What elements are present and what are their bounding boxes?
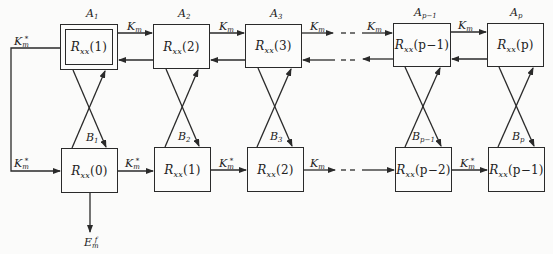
feedback-label-top: Km* xyxy=(14,35,32,48)
arrow-label-bottom-1: Km* xyxy=(125,157,143,170)
node-Ap: Rxx(p) xyxy=(487,23,544,67)
node-B3-content: Rxx(2) xyxy=(257,163,293,177)
arrow-label-top-1: Km xyxy=(127,20,142,33)
node-B2-content: Rxx(1) xyxy=(164,163,200,177)
node-B3: Rxx(2) xyxy=(247,147,304,192)
label-B1: B1 xyxy=(86,131,99,144)
label-B3: B3 xyxy=(270,130,283,143)
label-A3: A3 xyxy=(270,7,282,20)
node-Ap-1-content: Rxx(p−1) xyxy=(395,38,449,52)
arrow-label-top-4: Km xyxy=(367,20,382,33)
node-A2: Rxx(2) xyxy=(153,24,210,69)
arrow-label-top-2: Km xyxy=(219,20,234,33)
node-A3: Rxx(3) xyxy=(245,24,302,68)
lattice-diagram: Rxx(1) Rxx(2) Rxx(3) Rxx(p−1) Rxx(p) Rxx… xyxy=(0,0,553,254)
node-Ap-1: Rxx(p−1) xyxy=(393,23,451,67)
node-Ap-content: Rxx(p) xyxy=(497,38,533,52)
node-A3-content: Rxx(3) xyxy=(255,39,291,53)
node-Bp-1: Rxx(p−2) xyxy=(395,147,452,192)
label-Ap-1: Ap−1 xyxy=(414,6,437,19)
label-A1: A1 xyxy=(86,7,98,20)
arrow-label-bottom-3: Km xyxy=(310,157,325,170)
feedback-label-bottom: Km* xyxy=(14,157,32,170)
node-A1: Rxx(1) xyxy=(60,24,118,70)
label-Bp: Bp xyxy=(512,130,525,143)
node-B2: Rxx(1) xyxy=(154,147,211,192)
node-Bp: Rxx(p−1) xyxy=(488,147,545,192)
label-Ap: Ap xyxy=(510,6,522,19)
arrow-label-bottom-4: Km* xyxy=(460,157,478,170)
arrow-label-bottom-2: Km* xyxy=(219,157,237,170)
node-B1: Rxx(0) xyxy=(61,148,118,193)
node-Bp-content: Rxx(p−1) xyxy=(489,163,543,177)
label-A2: A2 xyxy=(178,7,190,20)
label-B2: B2 xyxy=(178,130,191,143)
output-label: Emf xyxy=(84,236,101,249)
label-Bp-1: Bp−1 xyxy=(412,130,435,143)
node-A2-content: Rxx(2) xyxy=(163,40,199,54)
node-Bp-1-content: Rxx(p−2) xyxy=(396,163,450,177)
node-B1-content: Rxx(0) xyxy=(71,164,107,178)
node-A1-content: Rxx(1) xyxy=(71,40,107,54)
arrow-label-top-3: Km xyxy=(310,20,325,33)
arrow-label-top-5: Km xyxy=(458,19,473,32)
